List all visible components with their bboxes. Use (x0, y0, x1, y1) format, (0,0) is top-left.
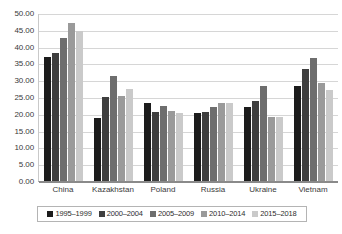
bar-group (39, 14, 89, 181)
plot-area (38, 14, 338, 182)
bar[interactable] (218, 103, 225, 181)
legend-label: 1995–1999 (55, 210, 91, 218)
x-axis-tick-label: Vietnam (288, 183, 338, 199)
bar[interactable] (126, 89, 133, 181)
bar-group (288, 14, 338, 181)
bar-group (89, 14, 139, 181)
legend-item[interactable]: 2005–2009 (150, 210, 194, 218)
y-axis-tick-label: 30.00 (14, 77, 34, 85)
legend: 1995–19992000–20042005–20092010–20142015… (37, 206, 307, 222)
bar[interactable] (276, 117, 283, 181)
y-axis-tick-label: 15.00 (14, 128, 34, 136)
bar[interactable] (252, 101, 259, 181)
plot-wrapper: 0.005.0010.0015.0020.0025.0030.0035.0040… (0, 0, 342, 202)
x-axis-tick-label: Ukraine (238, 183, 288, 199)
legend-swatch-icon (252, 211, 258, 217)
legend-label: 2010–2014 (209, 210, 245, 218)
bar[interactable] (326, 90, 333, 181)
legend-swatch-icon (47, 211, 53, 217)
bar[interactable] (76, 31, 83, 181)
bar[interactable] (194, 113, 201, 181)
legend-swatch-icon (150, 211, 156, 217)
legend-swatch-icon (201, 211, 207, 217)
y-axis-tick-label: 45.00 (14, 27, 34, 35)
legend-item[interactable]: 2000–2004 (99, 210, 143, 218)
legend-item[interactable]: 2010–2014 (201, 210, 245, 218)
bar[interactable] (226, 103, 233, 181)
bar-groups (39, 14, 338, 181)
bar[interactable] (118, 96, 125, 181)
x-axis-tick-label: Kazakhstan (88, 183, 138, 199)
bar-group (238, 14, 288, 181)
bar[interactable] (302, 69, 309, 181)
bar[interactable] (202, 112, 209, 181)
x-axis-tick-label: China (38, 183, 88, 199)
legend-label: 2015–2018 (260, 210, 296, 218)
x-axis-tick-label: Poland (138, 183, 188, 199)
bar[interactable] (144, 103, 151, 181)
bar-group (188, 14, 238, 181)
bar[interactable] (260, 86, 267, 181)
legend-item[interactable]: 2015–2018 (252, 210, 296, 218)
bar[interactable] (294, 86, 301, 181)
bar[interactable] (210, 107, 217, 181)
bar[interactable] (176, 113, 183, 181)
legend-label: 2000–2004 (107, 210, 143, 218)
legend-item[interactable]: 1995–1999 (47, 210, 91, 218)
legend-swatch-icon (99, 211, 105, 217)
bar[interactable] (44, 57, 51, 181)
y-axis-tick-label: 10.00 (14, 144, 34, 152)
y-axis-tick-label: 40.00 (14, 44, 34, 52)
bar[interactable] (94, 118, 101, 181)
y-axis-tick-label: 50.00 (14, 10, 34, 18)
bar[interactable] (60, 38, 67, 181)
legend-label: 2005–2009 (158, 210, 194, 218)
y-axis-tick-label: 20.00 (14, 111, 34, 119)
bar[interactable] (102, 97, 109, 181)
y-axis-tick-label: 0.00 (19, 178, 34, 186)
bar[interactable] (160, 106, 167, 181)
bar-chart: 0.005.0010.0015.0020.0025.0030.0035.0040… (0, 0, 342, 234)
bar[interactable] (268, 117, 275, 181)
bar[interactable] (310, 58, 317, 181)
bar[interactable] (68, 23, 75, 181)
bar[interactable] (110, 76, 117, 182)
y-axis: 0.005.0010.0015.0020.0025.0030.0035.0040… (0, 0, 38, 182)
bar[interactable] (244, 107, 251, 181)
bar[interactable] (52, 53, 59, 181)
y-axis-tick-label: 5.00 (19, 161, 34, 169)
y-axis-tick-label: 25.00 (14, 94, 34, 102)
bar[interactable] (152, 112, 159, 181)
y-axis-tick-label: 35.00 (14, 60, 34, 68)
bar-group (139, 14, 189, 181)
bar[interactable] (318, 83, 325, 181)
x-axis-tick-label: Russia (188, 183, 238, 199)
x-axis: ChinaKazakhstanPolandRussiaUkraineVietna… (38, 183, 338, 199)
bar[interactable] (168, 111, 175, 181)
